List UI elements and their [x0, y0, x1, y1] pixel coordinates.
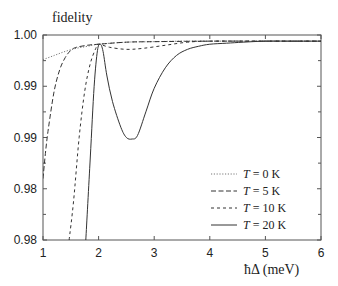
legend-entry: T = 5 K	[243, 184, 280, 198]
x-tick-label: 3	[151, 246, 158, 260]
x-tick-label: 6	[318, 246, 325, 260]
y-tick-label: 0.98	[14, 233, 38, 247]
series-t-0-k	[43, 41, 321, 59]
series-t-5-k	[43, 41, 321, 178]
x-tick-label: 1	[40, 246, 47, 260]
y-axis-label: fidelity	[52, 10, 92, 25]
fidelity-chart: fidelity 1234560.980.980.990.991.00 T = …	[0, 0, 338, 286]
y-tick-label: 0.98	[14, 182, 38, 196]
x-tick-label: 2	[95, 246, 102, 260]
legend-entry: T = 10 K	[243, 201, 286, 215]
x-tick-label: 5	[262, 246, 269, 260]
legend: T = 0 KT = 5 KT = 10 KT = 20 K	[211, 167, 286, 232]
x-axis-label: ħΔ (meV)	[244, 262, 300, 278]
y-tick-label: 0.99	[14, 79, 38, 93]
legend-entry: T = 0 K	[243, 167, 280, 181]
x-tick-label: 4	[206, 246, 213, 260]
y-tick-label: 0.99	[14, 131, 38, 145]
y-tick-label: 1.00	[14, 28, 38, 42]
legend-entry: T = 20 K	[243, 218, 286, 232]
